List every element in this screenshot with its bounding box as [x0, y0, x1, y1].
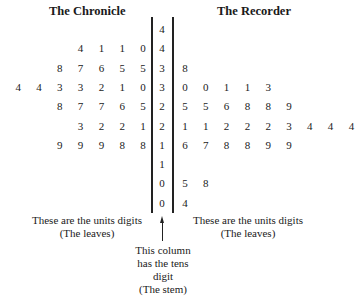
stem-value: 0: [155, 196, 169, 210]
recorder-leaf: 3: [282, 119, 296, 133]
chronicle-leaf: 7: [94, 99, 108, 113]
stem-value: 4: [155, 41, 169, 55]
chronicle-leaf: 4: [11, 80, 25, 94]
recorder-leaf: 0: [199, 80, 213, 94]
recorder-leaf: 1: [240, 80, 254, 94]
stem-value: 3: [155, 80, 169, 94]
right-leaves-note: These are the units digits (The leaves): [188, 214, 308, 240]
stem-value: 2: [155, 119, 169, 133]
chronicle-leaf: 5: [136, 61, 150, 75]
recorder-leaf: 9: [282, 99, 296, 113]
stem-value: 2: [155, 99, 169, 113]
recorder-leaf: 6: [220, 99, 234, 113]
recorder-leaf: 8: [178, 61, 192, 75]
recorder-leaf: 4: [324, 119, 338, 133]
chronicle-leaf: 0: [136, 41, 150, 55]
recorder-leaf: 8: [240, 99, 254, 113]
recorder-leaf: 1: [199, 119, 213, 133]
recorder-leaf: 3: [261, 80, 275, 94]
stem-value: 4: [155, 22, 169, 36]
stem-note-line1: This column: [132, 244, 194, 257]
recorder-leaf: 5: [178, 176, 192, 190]
recorder-leaf: 8: [199, 176, 213, 190]
chronicle-leaf: 1: [115, 41, 129, 55]
chronicle-leaf: 6: [94, 61, 108, 75]
recorder-leaf: 8: [220, 138, 234, 152]
recorder-leaf: 2: [240, 119, 254, 133]
recorder-leaf: 9: [282, 138, 296, 152]
chronicle-leaf: 8: [115, 138, 129, 152]
recorder-leaf: 2: [261, 119, 275, 133]
right-leaves-note-line2: (The leaves): [188, 227, 308, 240]
chronicle-leaf: 5: [136, 99, 150, 113]
stem-right-divider: [172, 17, 174, 213]
chronicle-leaf: 4: [74, 41, 88, 55]
recorder-leaf: 5: [178, 99, 192, 113]
left-leaves-note: These are the units digits (The leaves): [27, 214, 147, 240]
chronicle-leaf: 3: [74, 119, 88, 133]
stem-note-line3: digit: [132, 270, 194, 283]
stem-value: 1: [155, 157, 169, 171]
chronicle-leaf: 7: [74, 61, 88, 75]
recorder-leaf: 9: [261, 138, 275, 152]
chronicle-leaf: 2: [115, 119, 129, 133]
recorder-leaf: 1: [220, 80, 234, 94]
chronicle-leaf: 0: [136, 80, 150, 94]
chronicle-leaf: 3: [53, 80, 67, 94]
recorder-leaf: 5: [199, 99, 213, 113]
recorder-leaf: 2: [220, 119, 234, 133]
stem-value: 1: [155, 138, 169, 152]
chronicle-leaf: 9: [74, 138, 88, 152]
chronicle-leaf: 9: [94, 138, 108, 152]
chronicle-leaf: 8: [136, 138, 150, 152]
left-leaves-note-line1: These are the units digits: [27, 214, 147, 227]
chronicle-leaf: 2: [94, 80, 108, 94]
chronicle-leaf: 8: [53, 61, 67, 75]
title-chronicle: The Chronicle: [49, 4, 126, 19]
left-leaves-note-line2: (The leaves): [27, 227, 147, 240]
recorder-leaf: 1: [178, 119, 192, 133]
chronicle-leaf: 9: [53, 138, 67, 152]
chronicle-leaf: 1: [115, 80, 129, 94]
recorder-leaf: 8: [261, 99, 275, 113]
recorder-leaf: 6: [178, 138, 192, 152]
chronicle-leaf: 8: [53, 99, 67, 113]
stem-note-line4: (The stem): [132, 283, 194, 296]
stem-left-divider: [151, 17, 153, 213]
recorder-leaf: 4: [178, 196, 192, 210]
stem-value: 0: [155, 176, 169, 190]
chronicle-leaf: 5: [115, 61, 129, 75]
chronicle-leaf: 6: [115, 99, 129, 113]
recorder-leaf: 0: [178, 80, 192, 94]
chronicle-leaf: 7: [74, 99, 88, 113]
stem-value: 3: [155, 61, 169, 75]
chronicle-leaf: 1: [136, 119, 150, 133]
recorder-leaf: 4: [344, 119, 358, 133]
chronicle-leaf: 4: [32, 80, 46, 94]
recorder-leaf: 7: [199, 138, 213, 152]
right-leaves-note-line1: These are the units digits: [188, 214, 308, 227]
chronicle-leaf: 1: [94, 41, 108, 55]
recorder-leaf: 8: [240, 138, 254, 152]
stem-note-line2: has the tens: [132, 257, 194, 270]
stem-note: This column has the tens digit (The stem…: [132, 244, 194, 296]
chronicle-leaf: 3: [74, 80, 88, 94]
title-recorder: The Recorder: [217, 4, 291, 19]
recorder-leaf: 4: [303, 119, 317, 133]
chronicle-leaf: 2: [94, 119, 108, 133]
